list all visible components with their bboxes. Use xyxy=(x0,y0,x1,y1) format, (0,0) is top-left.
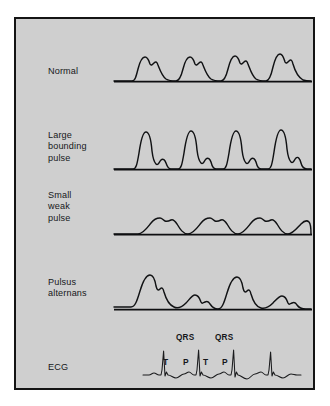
figure-frame: Normal Large bounding pulse Small weak p… xyxy=(14,17,315,390)
waveform-rows: Normal Large bounding pulse Small weak p… xyxy=(16,19,313,388)
waveform-ecg xyxy=(16,19,317,392)
pulse-waveform-figure: Normal Large bounding pulse Small weak p… xyxy=(0,0,330,406)
